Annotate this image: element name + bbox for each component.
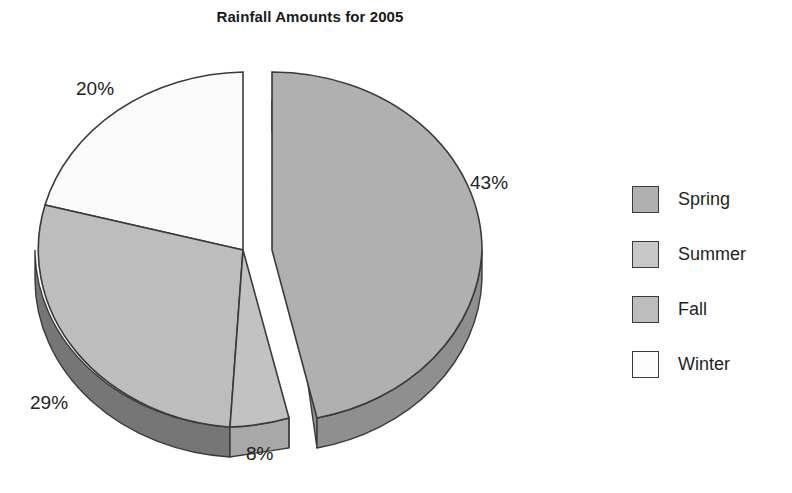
pie-chart-graphic: 43% 8% 29% 20% — [0, 0, 620, 493]
legend-label-winter: Winter — [678, 354, 730, 375]
slice-label-spring: 43% — [470, 172, 508, 194]
legend-label-summer: Summer — [678, 244, 746, 265]
slice-label-fall: 29% — [30, 392, 68, 414]
legend-item-spring: Spring — [632, 172, 792, 227]
legend-swatch-spring — [632, 186, 659, 213]
legend-swatch-winter — [632, 351, 659, 378]
pie-svg — [0, 0, 620, 493]
legend-swatch-fall — [632, 296, 659, 323]
legend-label-spring: Spring — [678, 189, 730, 210]
chart-legend: Spring Summer Fall Winter — [632, 172, 792, 392]
legend-item-summer: Summer — [632, 227, 792, 282]
slice-label-summer: 8% — [246, 443, 273, 465]
legend-item-winter: Winter — [632, 337, 792, 392]
slice-label-winter: 20% — [76, 78, 114, 100]
legend-item-fall: Fall — [632, 282, 792, 337]
pie-chart-page: Rainfall Amounts for 2005 — [0, 0, 792, 493]
legend-label-fall: Fall — [678, 299, 707, 320]
legend-swatch-summer — [632, 241, 659, 268]
